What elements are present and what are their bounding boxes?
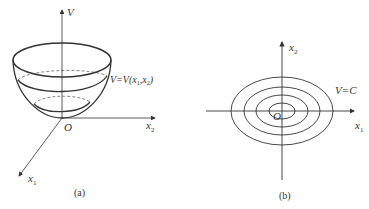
- caption-b: (b): [279, 190, 291, 202]
- panel-a-paraboloid: [13, 10, 155, 176]
- v-axis-label: V: [67, 6, 75, 18]
- x1-axis-label: x1: [27, 172, 37, 187]
- contour-label: V=C: [335, 84, 357, 96]
- caption-a: (a): [74, 187, 85, 199]
- x1-axis: [19, 118, 62, 176]
- x2-axis-label: x2: [145, 119, 155, 134]
- origin-label-a: O: [64, 121, 72, 133]
- origin-label-b: O: [273, 110, 281, 122]
- x1-axis-label-b: x1: [354, 119, 364, 134]
- x2-axis-label-b: x2: [288, 41, 298, 56]
- lyapunov-diagram: V x2 x1 O V=V(x1,x2) (a) x2 x1 O V=C (b): [0, 0, 369, 209]
- level-curve-1-back: [18, 70, 107, 80]
- surface-label: V=V(x1,x2): [110, 74, 154, 86]
- level-curve-1-front: [18, 76, 107, 92]
